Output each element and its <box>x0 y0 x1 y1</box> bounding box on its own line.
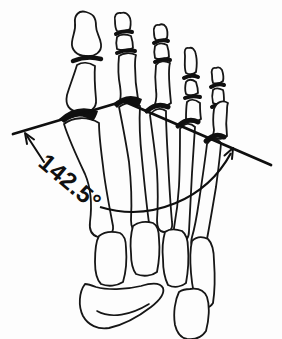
navicular <box>80 284 164 329</box>
talus-head <box>174 289 209 339</box>
foot-angle-figure: 142.5° <box>0 0 282 339</box>
fourth-metatarsal <box>174 124 195 241</box>
toe4-middle-phalanx <box>185 80 198 95</box>
tarsals <box>80 222 215 339</box>
arc-left-arrow-shaft <box>27 136 44 162</box>
hallux-proximal-phalanx <box>67 63 97 112</box>
toe4-distal-phalanx <box>185 48 197 74</box>
third-metatarsal <box>150 109 172 232</box>
lateral-cuneiform <box>163 230 189 287</box>
toe-2 <box>115 13 138 102</box>
toe5-distal-phalanx <box>212 67 224 83</box>
second-metatarsal <box>119 103 149 233</box>
toe-5 <box>211 67 228 138</box>
toe4-pip-joint-band <box>185 96 200 98</box>
foot-skeleton-diagram: 142.5° <box>0 0 282 339</box>
toe4-dip-joint-band <box>184 76 198 78</box>
toe-3 <box>154 24 171 105</box>
intermediate-cuneiform <box>131 222 160 276</box>
toe5-dip-joint-band <box>211 84 224 87</box>
toe2-middle-phalanx <box>116 35 133 50</box>
toe2-dip-joint-band <box>116 31 132 34</box>
toe-4 <box>184 48 201 122</box>
toe3-proximal-phalanx <box>155 61 171 106</box>
toe2-proximal-phalanx <box>118 53 138 102</box>
hallux-ip-joint-band <box>73 57 101 61</box>
toe-1-hallux <box>67 12 102 113</box>
toe2-distal-phalanx <box>115 13 131 32</box>
toe3-distal-phalanx <box>154 24 168 40</box>
fifth-metatarsal <box>191 139 221 249</box>
hallux-distal-phalanx <box>72 12 101 57</box>
toe3-dip-joint-band <box>154 40 168 43</box>
toe3-middle-phalanx <box>154 44 169 59</box>
medial-cuneiform <box>95 232 126 286</box>
